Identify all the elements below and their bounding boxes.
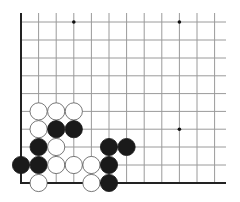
star-point <box>178 20 182 24</box>
white-stone <box>65 156 82 173</box>
white-stone <box>65 103 82 120</box>
star-point <box>72 20 76 24</box>
black-stone <box>30 156 47 173</box>
white-stone <box>30 121 47 138</box>
black-stone <box>100 174 117 191</box>
white-stone <box>30 174 47 191</box>
black-stone <box>118 138 135 155</box>
black-stone <box>100 156 117 173</box>
black-stone <box>48 121 65 138</box>
star-point <box>178 127 182 131</box>
black-stone <box>30 138 47 155</box>
black-stone <box>100 138 117 155</box>
white-stone <box>30 103 47 120</box>
white-stone <box>83 156 100 173</box>
go-board <box>0 0 240 202</box>
white-stone <box>83 174 100 191</box>
white-stone <box>48 156 65 173</box>
black-stone <box>65 121 82 138</box>
black-stone <box>12 156 29 173</box>
white-stone <box>48 138 65 155</box>
white-stone <box>48 103 65 120</box>
